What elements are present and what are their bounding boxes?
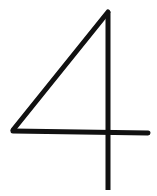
horizontal-stroke (13, 131, 148, 133)
diagonal-stroke (13, 12, 108, 130)
digit-four-glyph (0, 0, 157, 196)
